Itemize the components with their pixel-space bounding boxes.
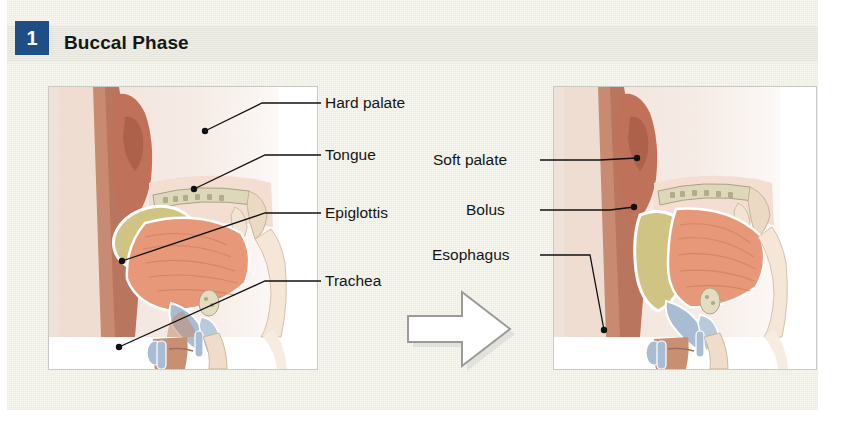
rightward-transition-arrow <box>400 282 530 374</box>
label-epiglottis: Epiglottis <box>325 205 388 221</box>
label-bolus: Bolus <box>466 202 505 218</box>
step-number-badge: 1 <box>15 21 49 55</box>
label-hard-palate: Hard palate <box>325 95 405 111</box>
label-trachea: Trachea <box>325 273 381 289</box>
label-soft-palate: Soft palate <box>433 152 507 168</box>
sagittal-head-section-before <box>49 87 317 369</box>
figure-page: 1 Buccal Phase <box>0 0 860 424</box>
sagittal-head-section-after <box>554 87 816 369</box>
label-tongue: Tongue <box>325 147 376 163</box>
anatomy-illustration-before <box>48 86 318 370</box>
page-title: Buccal Phase <box>64 26 189 60</box>
anatomy-illustration-after <box>553 86 817 370</box>
label-esophagus: Esophagus <box>432 247 510 263</box>
arrow-shape <box>400 282 530 374</box>
